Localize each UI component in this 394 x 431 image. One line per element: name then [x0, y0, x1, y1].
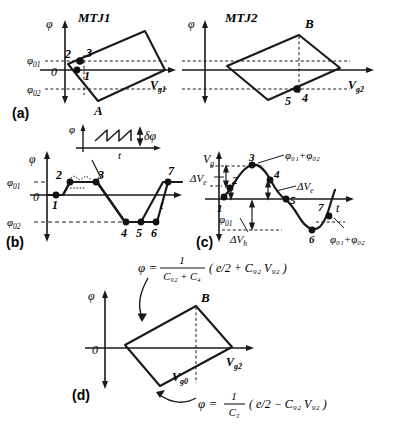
inset-delta-phi-label: δφ — [144, 129, 157, 143]
equation-top-arrowhead — [138, 314, 148, 323]
point-label-3-mtj1: 3 — [85, 46, 92, 60]
tick-zero-mtj1: 0 — [51, 65, 57, 79]
y-axis-arrow-down-panel-d — [102, 381, 108, 389]
panel-a-title-mtj1: MTJ1 — [77, 10, 111, 25]
x-axis-arrow-mtj1 — [168, 67, 176, 73]
stability-parallelogram-mtj2 — [227, 35, 340, 100]
delta-phi-arrow — [138, 128, 143, 145]
vertex-label-a-mtj1: A — [93, 103, 103, 118]
point-dot-7-panel-c — [326, 213, 333, 220]
operating-point-2-3 — [76, 57, 84, 65]
point-label-5-panel-c: 5 — [290, 194, 296, 206]
delta-ve-right-arrow — [266, 181, 270, 199]
y-axis-arrow-down-panel-c — [216, 234, 222, 242]
point-label-6-panel-b: 6 — [151, 226, 157, 240]
tick-phi02-panel-b: φ02 — [7, 216, 21, 231]
point-label-1-panel-b: 1 — [52, 198, 58, 212]
panel-a-mtj2: MTJ2 φ B 5 4 Vg2 — [182, 10, 374, 108]
equation-top-lhs: φ = — [138, 260, 157, 275]
point-label-7-panel-c: 7 — [318, 201, 324, 213]
point-dot-5-panel-c — [283, 196, 290, 203]
operating-point-4-5 — [293, 85, 301, 93]
point-label-5-panel-b: 5 — [136, 226, 142, 240]
origin-label-panel-d: 0 — [92, 343, 98, 357]
equation-top: φ = 1 C₉₂ + C₄ ( e/2 + C₉₂ V₉₂ ) — [138, 254, 287, 282]
y-axis-arrow-up-mtj1 — [62, 20, 68, 28]
equation-top-numerator: 1 — [179, 254, 185, 266]
inset-x-axis-arrow — [154, 146, 161, 151]
y-axis-arrow-up-panel-b — [44, 151, 50, 159]
point-label-3-panel-b: 3 — [97, 168, 104, 182]
delta-ve-left-arrow — [224, 166, 228, 187]
point-label-4-mtj2: 4 — [301, 91, 308, 105]
dashed-guides-mtj2 — [182, 36, 350, 95]
point-label-7-panel-b: 7 — [168, 164, 175, 178]
point-dot-5-panel-b — [138, 219, 145, 226]
point-dot-6-panel-b — [153, 219, 160, 226]
annotation-delta-ve-right: ΔVe — [296, 180, 314, 195]
point-label-1-mtj1: 1 — [84, 69, 90, 83]
delta-vh-arrow — [250, 201, 254, 229]
panel-d-caption: (d) — [72, 387, 90, 403]
y-axis-label-mtj1: φ — [46, 17, 53, 31]
equation-bottom-lhs: φ = — [198, 396, 217, 411]
y-axis-arrow-down-panel-b — [44, 234, 50, 242]
y-axis-label-panel-d: φ — [88, 289, 95, 303]
tick-zero-panel-b: 0 — [33, 190, 39, 204]
x-axis-label-mtj2: Vg2 — [348, 78, 364, 94]
point-dot-1-panel-c — [221, 194, 228, 201]
y-axis-arrow-down-mtj2 — [202, 96, 208, 104]
panel-c-caption: (c) — [196, 234, 213, 250]
x-axis-arrow-panel-b — [174, 192, 182, 198]
y-axis-arrow-up-mtj2 — [202, 20, 208, 28]
panel-b-caption: (b) — [6, 234, 24, 250]
panel-a-title-mtj2: MTJ2 — [224, 10, 258, 25]
x-axis-label-panel-c: t — [336, 201, 340, 215]
point-label-6-panel-c: 6 — [309, 233, 315, 245]
point-label-2-panel-c: 2 — [231, 174, 238, 186]
panel-a-caption: (a) — [12, 105, 29, 121]
panel-b: φ φ01 0 φ02 1 2 3 4 5 6 7 t — [6, 123, 182, 250]
annotation-delta-vh: ΔVh — [229, 233, 247, 248]
panel-b-inset: δφ φ t — [69, 123, 161, 161]
annotation-phi-sum-bottom: φ₀₁+φ₀₂ — [330, 233, 365, 245]
x-axis-arrow-panel-c — [346, 196, 354, 202]
x-axis-arrow-mtj2 — [366, 67, 374, 73]
y-axis-arrow-down-mtj1 — [62, 96, 68, 104]
figure-root: MTJ1 φ φ01 0 φ02 2 3 1 A Vg1 — [0, 0, 394, 431]
annotation-delta-ve-left: ΔVe — [189, 172, 207, 187]
operating-point-1 — [74, 67, 81, 74]
x-axis-arrow-panel-d — [246, 345, 254, 351]
point-label-2-mtj1: 2 — [64, 47, 71, 61]
panel-a: MTJ1 φ φ01 0 φ02 2 3 1 A Vg1 — [12, 10, 374, 121]
point-label-5-mtj2: 5 — [285, 94, 291, 108]
point-label-3-panel-c: 3 — [248, 151, 255, 163]
y-axis-label-panel-b: φ — [29, 152, 36, 166]
panel-a-mtj1: MTJ1 φ φ01 0 φ02 2 3 1 A Vg1 — [27, 10, 176, 118]
point-label-4-panel-c: 4 — [273, 168, 280, 180]
annotation-phi01-panel-c: φ01 — [219, 213, 233, 228]
tick-phi01-mtj1: φ01 — [27, 54, 41, 69]
equation-bottom-arrow — [160, 395, 196, 402]
equation-top-denominator: C₉₂ + C₄ — [163, 271, 201, 282]
point-dot-2-panel-b — [67, 179, 74, 186]
inset-y-axis-label: φ — [69, 123, 75, 135]
vertex-label-b-mtj2: B — [304, 16, 314, 31]
equation-top-arrow — [140, 278, 148, 317]
point-dot-4-panel-b — [123, 219, 130, 226]
annotation-phi-sum-top: φ₀₁+φ₀₂ — [285, 149, 320, 161]
inset-y-axis-arrow — [81, 124, 86, 131]
y-axis-arrow-up-panel-d — [102, 290, 108, 298]
y-axis-label-mtj2: φ — [188, 17, 195, 31]
equation-bottom-paren: ( e/2 − C₉₂ V₉₂ ) — [249, 397, 327, 411]
inset-x-axis-label: t — [118, 149, 122, 161]
point-label-4-panel-b: 4 — [120, 226, 127, 240]
y-axis-label-panel-c: Vg — [203, 152, 214, 168]
x-axis-label-mtj1: Vg1 — [150, 78, 166, 94]
point-label-2-panel-b: 2 — [55, 168, 62, 182]
point-dot-7-panel-b — [165, 179, 172, 186]
tick-phi01-panel-b: φ01 — [7, 176, 21, 191]
y-axis-arrow-up-panel-c — [216, 151, 222, 159]
equation-bottom-numerator: 1 — [231, 390, 237, 402]
panel-d: φ = 1 C₉₂ + C₄ ( e/2 + C₉₂ V₉₂ ) φ 0 — [72, 254, 327, 418]
